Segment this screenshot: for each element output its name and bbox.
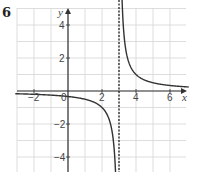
y-tick-label: −2 [54,119,66,130]
x-tick-label: 4 [133,92,139,103]
y-tick-label: −4 [54,152,66,163]
y-axis-label: y [57,6,63,18]
y-tick-label: 2 [59,53,65,64]
hyperbola-graph: xy −2024642−2−4 [0,0,203,172]
y-tick-label: 4 [59,20,65,31]
x-tick-label: 0 [61,92,67,103]
left-branch [15,94,115,172]
grid-lines [17,8,186,172]
x-tick-label: −2 [28,92,40,103]
x-tick-label: 6 [167,92,173,103]
x-tick-label: 2 [99,92,105,103]
right-branch [122,0,189,87]
x-axis-label: x [181,91,187,103]
